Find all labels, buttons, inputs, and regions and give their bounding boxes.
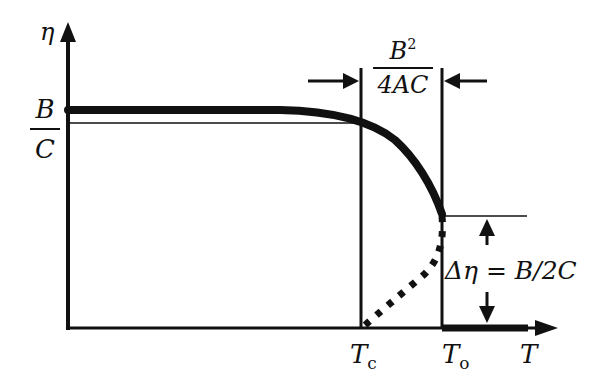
gap-label: B2 4AC bbox=[373, 36, 433, 99]
diagram-graphics bbox=[0, 0, 615, 387]
y-marker-b-over-c: B C bbox=[30, 94, 60, 164]
gap-label-denominator: 4AC bbox=[378, 71, 429, 99]
y-marker-numerator: B bbox=[35, 94, 54, 124]
gap-num-base: B bbox=[390, 37, 408, 65]
x-axis-label: T bbox=[520, 341, 537, 367]
jump-label: Δη = B/2C bbox=[445, 258, 577, 283]
stable-branch-curve bbox=[68, 110, 442, 214]
tick-label-tc: Tc bbox=[350, 341, 377, 372]
tc-base: T bbox=[350, 339, 367, 369]
gap-num-sup: 2 bbox=[407, 36, 416, 52]
unstable-branch-curve bbox=[364, 216, 442, 326]
y-marker-denominator: C bbox=[35, 134, 55, 164]
gap-label-numerator: B2 bbox=[390, 36, 417, 65]
tick-label-to: To bbox=[442, 341, 470, 372]
fraction-bar bbox=[373, 67, 433, 69]
y-axis-label: η bbox=[40, 20, 54, 44]
to-sub: o bbox=[459, 353, 469, 373]
y-axis bbox=[60, 22, 76, 330]
fraction-bar bbox=[30, 128, 60, 130]
tc-sub: c bbox=[367, 353, 376, 373]
diagram-canvas: η B C B2 4AC Δη = B/2C Tc To T bbox=[0, 0, 615, 387]
to-base: T bbox=[442, 339, 459, 369]
